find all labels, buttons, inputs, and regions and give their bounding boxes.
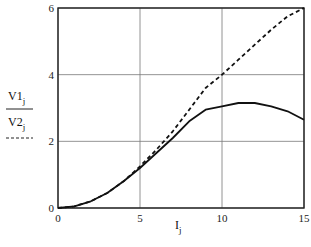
legend-v1-label: V1j [8,89,25,106]
line-chart: 0510150246 V1j V2j Ij [0,0,311,247]
x-tick-label: 10 [217,212,229,224]
grid-lines [58,8,304,208]
y-tick-label: 6 [49,2,55,14]
tick-labels: 0510150246 [49,2,311,224]
x-tick-label: 0 [55,212,61,224]
series-group [58,8,304,208]
y-tick-label: 0 [49,202,55,214]
x-axis-label: Ij [175,218,182,235]
y-axis-legend: V1j V2j [6,89,33,138]
series-v1-j [58,103,304,208]
y-tick-label: 4 [49,69,55,81]
plot-border [58,8,304,208]
x-tick-label: 15 [299,212,311,224]
y-tick-label: 2 [49,135,55,147]
x-tick-label: 5 [137,212,143,224]
series-v2-j [58,8,304,208]
legend-v2-label: V2j [8,115,25,132]
plot-frame [58,8,304,208]
